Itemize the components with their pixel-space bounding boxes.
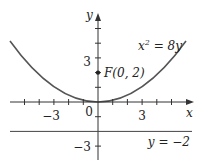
x-axis-label: x bbox=[186, 106, 193, 120]
focus-point bbox=[96, 70, 100, 74]
y-axis-arrow-icon bbox=[95, 13, 101, 21]
y-tick-label-pos3: 3 bbox=[83, 55, 91, 69]
x-tick-label-pos3: 3 bbox=[138, 109, 146, 123]
y-tick-label-neg3: −3 bbox=[73, 140, 91, 154]
y-axis-label: y bbox=[85, 8, 93, 22]
x-axis-arrow-icon bbox=[186, 99, 194, 105]
x-tick-label-zero: 0 bbox=[85, 105, 93, 119]
x-tick-label-neg3: −3 bbox=[42, 109, 60, 123]
parabola-diagram: y x −3 0 3 3 −3 F(0, 2) y = −2 x2 = 8y bbox=[0, 0, 201, 166]
curve-label: x2 = 8y bbox=[138, 38, 182, 53]
focus-label: F(0, 2) bbox=[103, 66, 145, 80]
directrix-label: y = −2 bbox=[147, 135, 190, 149]
curve-label-rhs: = 8y bbox=[150, 39, 182, 53]
